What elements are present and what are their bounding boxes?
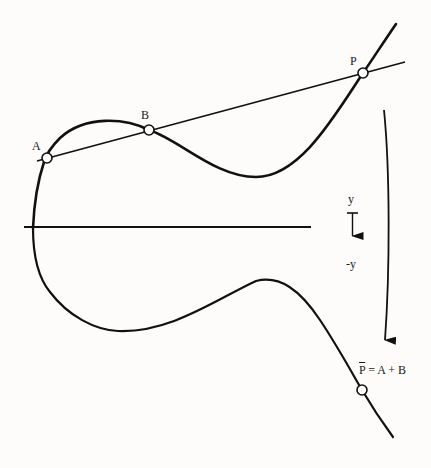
curve-upper-branch [33, 24, 396, 228]
elliptic-curve-diagram: A B P y -y P = A + B [0, 0, 431, 468]
diagram-svg [0, 0, 431, 468]
secant-line [37, 62, 405, 161]
reflection-arrow [384, 110, 389, 340]
point-a-label: A [32, 140, 41, 152]
curve-lower-branch [33, 228, 393, 437]
result-label: P = A + B [359, 364, 406, 376]
point-pbar-marker [357, 385, 367, 395]
y-label: y [348, 193, 354, 205]
point-b-marker [144, 125, 154, 135]
point-p-marker [358, 68, 368, 78]
point-p-label: P [350, 55, 357, 67]
result-equation: = A + B [365, 363, 406, 377]
point-a-marker [42, 153, 52, 163]
neg-y-label: -y [346, 258, 356, 270]
point-b-label: B [141, 109, 149, 121]
